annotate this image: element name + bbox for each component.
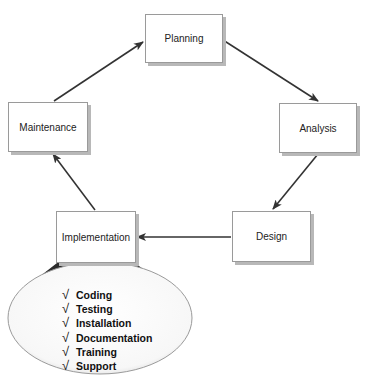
list-item: √ Support [62,359,182,373]
list-item: √ Coding [62,288,182,302]
implementation-task-list: √ Coding √ Testing √ Installation √ Docu… [62,288,182,373]
checkmark-icon: √ [62,345,75,358]
checkmark-icon: √ [62,302,75,315]
checkmark-icon: √ [62,288,75,301]
arrow-planning-to-analysis [223,40,318,101]
checkmark-icon: √ [62,359,75,372]
list-item: √ Documentation [62,331,182,345]
phase-label-implementation: Implementation [62,232,130,243]
phase-label-design: Design [256,231,287,242]
phase-box-analysis[interactable]: Analysis [279,103,357,153]
phase-box-maintenance[interactable]: Maintenance [8,102,88,152]
checkmark-icon: √ [62,331,75,344]
list-item: √ Testing [62,302,182,316]
phase-box-planning[interactable]: Planning [145,14,223,63]
arrow-implementation-to-maintenance [53,154,95,210]
phase-label-planning: Planning [165,33,204,44]
list-item: √ Training [62,345,182,359]
arrow-maintenance-to-planning [54,42,143,101]
checkmark-icon: √ [62,316,75,329]
phase-box-implementation[interactable]: Implementation [56,211,136,263]
list-item: √ Installation [62,316,182,330]
phase-box-design[interactable]: Design [232,211,311,262]
phase-label-maintenance: Maintenance [19,122,76,133]
arrow-analysis-to-design [273,154,318,209]
phase-label-analysis: Analysis [299,123,336,134]
